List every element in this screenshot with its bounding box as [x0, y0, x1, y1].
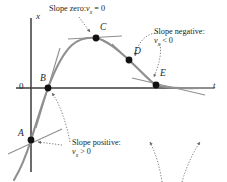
x-axis-label: t: [213, 81, 216, 90]
point-label-b: B: [40, 74, 46, 84]
arrow-to-b: [52, 93, 70, 142]
point-e[interactable]: [153, 82, 160, 89]
position-curve: [14, 38, 214, 180]
point-c[interactable]: [93, 35, 100, 42]
y-axis-label: x: [36, 12, 40, 21]
annotation-slope-positive: Slope positive: vx > 0: [72, 139, 121, 159]
arrow-to-c: [79, 17, 90, 32]
origin-label: 0: [19, 82, 24, 91]
point-label-a: A: [18, 129, 24, 139]
arrow-to-a: [38, 142, 62, 145]
annotation-slope-zero-relation: = 0: [92, 4, 105, 13]
annotation-slope-positive-line2: vx > 0: [72, 148, 121, 159]
annotation-slope-negative: Slope negative: vx < 0: [154, 28, 205, 48]
annotation-slope-positive-relation: > 0: [78, 147, 91, 156]
point-b[interactable]: [45, 85, 52, 92]
tangent-lines-group: [8, 36, 205, 154]
annotation-slope-positive-text: Slope positive:: [72, 138, 121, 147]
annotation-slope-negative-relation: < 0: [160, 36, 173, 45]
point-a[interactable]: [28, 137, 35, 144]
annotation-slope-negative-line2: vx < 0: [154, 37, 205, 48]
point-label-d: D: [134, 47, 141, 57]
point-label-e: E: [160, 69, 166, 79]
annotation-slope-negative-text: Slope negative:: [154, 27, 205, 36]
point-d[interactable]: [126, 57, 133, 64]
point-label-c: C: [100, 23, 106, 33]
position-time-graph-figure: x t 0 A B C D E Slope zero:vx = 0 Slope …: [0, 0, 227, 182]
annotation-slope-zero-text: Slope zero:: [49, 4, 86, 13]
arrow-bottom-right-arc: [182, 142, 200, 182]
tangent-at-a: [8, 129, 62, 154]
annotation-slope-zero: Slope zero:vx = 0: [49, 5, 105, 16]
arrow-bottom-left-arc: [150, 142, 162, 182]
